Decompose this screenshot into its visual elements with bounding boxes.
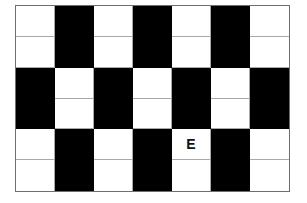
grid-cell [211, 37, 250, 68]
grid-cell [211, 99, 250, 129]
grid-cell [250, 160, 289, 191]
grid-cell [172, 99, 211, 129]
grid-cell [133, 6, 172, 37]
grid-cell [172, 37, 211, 68]
grid-cell [172, 6, 211, 37]
grid-cell [250, 129, 289, 160]
grid-cell [55, 160, 94, 191]
grid-cell [211, 68, 250, 99]
grid-cell [55, 129, 94, 160]
grid-cell [16, 37, 55, 68]
checkerboard-grid: E [16, 6, 289, 191]
grid-cell [250, 99, 289, 129]
grid-cell [94, 37, 133, 68]
grid-cell [16, 160, 55, 191]
image-canvas: E [0, 0, 307, 203]
grid-cell-label: E [186, 137, 195, 151]
grid-cell: E [172, 129, 211, 160]
grid-cell [16, 129, 55, 160]
grid-cell [55, 37, 94, 68]
grid-cell [16, 68, 55, 99]
grid-cell [211, 6, 250, 37]
grid-cell [133, 37, 172, 68]
grid-cell [211, 129, 250, 160]
grid-cell [94, 129, 133, 160]
grid-cell [250, 68, 289, 99]
grid-cell [133, 129, 172, 160]
grid-cell [133, 68, 172, 99]
grid-cell [172, 68, 211, 99]
grid-cell [55, 6, 94, 37]
grid-cell [211, 160, 250, 191]
grid-cell [94, 160, 133, 191]
grid-cell [94, 6, 133, 37]
checkerboard-plate: E [15, 5, 290, 192]
grid-cell [94, 68, 133, 99]
grid-cell [94, 99, 133, 129]
grid-cell [16, 6, 55, 37]
grid-cell [133, 160, 172, 191]
grid-cell [250, 37, 289, 68]
grid-cell [55, 68, 94, 99]
grid-cell [55, 99, 94, 129]
grid-cell [250, 6, 289, 37]
grid-cell [16, 99, 55, 129]
grid-cell [172, 160, 211, 191]
grid-cell [133, 99, 172, 129]
